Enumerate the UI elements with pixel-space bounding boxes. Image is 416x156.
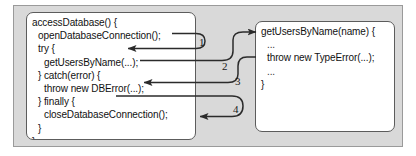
code-lines-right: getUsersByName(name) {...throw new TypeE… (256, 22, 394, 131)
arrow-label-2: 2 (222, 61, 228, 72)
access-database-line-8: } (32, 122, 195, 135)
get-users-by-name-line-2: throw new TypeError(...); (261, 51, 394, 64)
access-database-line-3: getUsersByName(...); (32, 56, 195, 69)
access-database-line-6: } finally { (32, 95, 195, 108)
access-database-line-1: openDatabaseConnection(); (32, 29, 195, 42)
access-database-line-0: accessDatabase() { (32, 16, 195, 29)
access-database-line-2: try { (32, 42, 195, 55)
access-database-line-4: } catch(error) { (32, 69, 195, 82)
code-box-get-users-by-name: getUsersByName(name) {...throw new TypeE… (255, 21, 395, 132)
access-database-line-7: closeDatabaseConnection(); (32, 108, 195, 121)
arrow-label-4: 4 (233, 104, 239, 115)
code-lines-left: accessDatabase() {openDatabaseConnection… (27, 13, 195, 139)
arrow-label-3: 3 (235, 76, 241, 87)
get-users-by-name-line-4: } (261, 78, 394, 91)
exception-flow-diagram: accessDatabase() {openDatabaseConnection… (0, 0, 416, 156)
get-users-by-name-line-3: ... (261, 65, 394, 78)
get-users-by-name-line-0: getUsersByName(name) { (261, 25, 394, 38)
get-users-by-name-line-1: ... (261, 38, 394, 51)
access-database-line-9: } (32, 135, 195, 140)
access-database-line-5: throw new DBError(...); (32, 82, 195, 95)
code-box-access-database: accessDatabase() {openDatabaseConnection… (26, 12, 196, 140)
arrow-label-1: 1 (199, 37, 205, 48)
